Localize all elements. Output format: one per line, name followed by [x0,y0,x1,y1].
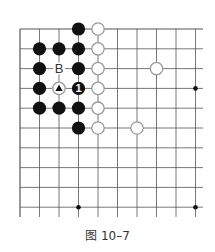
white-stone [92,23,104,35]
board-grid [20,29,203,217]
point-labels: B [53,61,65,76]
black-stone [72,102,85,115]
black-stone [33,62,46,75]
point-label: B [55,61,64,76]
star-point-icon [76,205,81,210]
white-stone [92,102,104,114]
black-stone [72,121,85,134]
white-stone [92,122,104,134]
white-stone [131,122,143,134]
white-stone [150,62,162,74]
black-stone [52,102,65,115]
black-stone [33,42,46,55]
black-stone [52,42,65,55]
white-stone [92,62,104,74]
go-board: B 1 [0,0,215,222]
move-number-label: 1 [75,82,81,94]
star-point-icon [193,86,198,91]
black-stone [72,42,85,55]
black-stone [72,62,85,75]
black-stone [33,82,46,95]
star-point-icon [193,205,198,210]
white-stone [92,82,104,94]
white-stone [92,43,104,55]
black-stone [33,102,46,115]
black-stone [72,22,85,35]
figure-caption: 图 10–7 [0,226,215,243]
